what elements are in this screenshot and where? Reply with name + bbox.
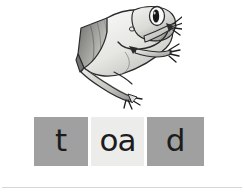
phoneme-frame: t oa d: [34, 117, 204, 166]
worksheet-page: t oa d: [0, 0, 244, 196]
phoneme-letter-oa: oa: [100, 125, 136, 156]
phoneme-box-oa[interactable]: oa: [91, 117, 144, 166]
phoneme-letter-d: d: [166, 125, 186, 156]
phoneme-box-d[interactable]: d: [147, 117, 204, 166]
phoneme-box-t[interactable]: t: [34, 117, 88, 166]
frog-illustration: [70, 2, 182, 110]
phoneme-letter-t: t: [55, 125, 67, 156]
frog-eye: [150, 7, 165, 26]
footer-divider: [2, 187, 242, 188]
